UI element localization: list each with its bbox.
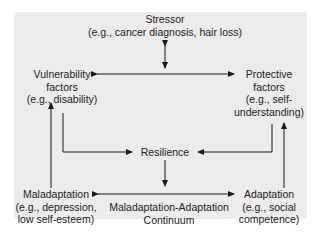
protective-resilience-arrow — [198, 124, 272, 152]
vulnerability-line3: (e.g., disability) — [22, 93, 102, 106]
maladaptation-line1: Maladaptation — [12, 188, 100, 201]
protective-line1: Protective — [233, 68, 305, 81]
stressor-title: Stressor — [85, 13, 245, 26]
continuum-line2: Continuum — [106, 214, 232, 227]
resilience-title: Resilience — [135, 146, 195, 159]
adaptation-line1: Adaptation — [234, 188, 304, 201]
stressor-node: Stressor (e.g., cancer diagnosis, hair l… — [85, 13, 245, 38]
adaptation-node: Adaptation (e.g., social competence) — [234, 188, 304, 226]
adaptation-line3: competence) — [234, 213, 304, 226]
vulnerability-line1: Vulnerability — [22, 68, 102, 81]
protective-line4: understanding) — [233, 106, 305, 119]
resilience-node: Resilience — [135, 146, 195, 159]
vulnerability-line2: factors — [22, 81, 102, 94]
continuum-line1: Maladaptation-Adaptation — [106, 201, 232, 214]
continuum-node: Maladaptation-Adaptation Continuum — [106, 201, 232, 226]
stressor-example: (e.g., cancer diagnosis, hair loss) — [85, 26, 245, 39]
vulnerability-resilience-arrow — [63, 113, 132, 152]
maladaptation-line2: (e.g., depression, — [12, 201, 100, 214]
protective-line3: (e.g., self- — [233, 93, 305, 106]
protective-line2: factors — [233, 81, 305, 94]
vulnerability-node: Vulnerability factors (e.g., disability) — [22, 68, 102, 106]
protective-node: Protective factors (e.g., self- understa… — [233, 68, 305, 118]
adaptation-line2: (e.g., social — [234, 201, 304, 214]
maladaptation-line3: low self-esteem) — [12, 213, 100, 226]
maladaptation-node: Maladaptation (e.g., depression, low sel… — [12, 188, 100, 226]
